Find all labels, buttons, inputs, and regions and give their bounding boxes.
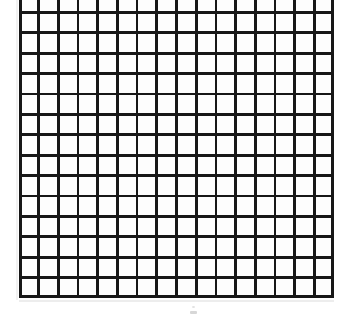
graph-paper-grid [19,0,334,298]
page-canvas [0,0,355,319]
scan-speck-icon [192,306,195,308]
grid-baseline-shadow [19,300,334,302]
grid-left-edge-shadow [16,0,18,300]
scan-smudge-icon [190,311,197,314]
grid-svg [19,0,334,298]
